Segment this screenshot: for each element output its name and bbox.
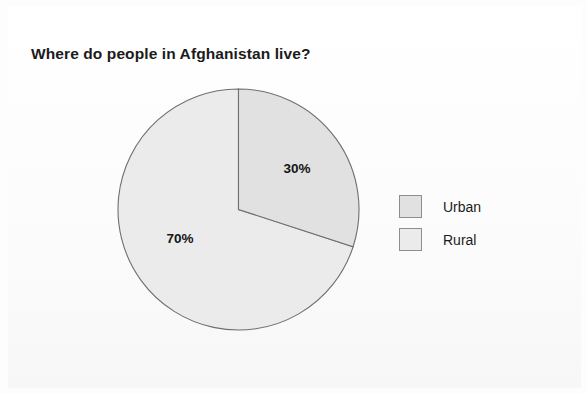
pie-chart-plot: 30% 70% xyxy=(117,88,360,331)
pie-chart-figure: Where do people in Afghanistan live? 30%… xyxy=(0,0,587,394)
legend-item-rural[interactable]: Rural xyxy=(399,223,549,256)
legend-swatch-rural xyxy=(399,228,422,251)
legend-swatch-urban xyxy=(399,195,422,218)
legend-item-urban[interactable]: Urban xyxy=(399,190,549,223)
legend-label-urban: Urban xyxy=(443,199,481,215)
pie-svg: 30% 70% xyxy=(117,88,360,331)
pie-label-rural: 70% xyxy=(166,231,193,246)
chart-legend: Urban Rural xyxy=(399,190,549,256)
chart-title: Where do people in Afghanistan live? xyxy=(31,45,310,63)
legend-label-rural: Rural xyxy=(443,232,476,248)
pie-label-urban: 30% xyxy=(283,161,310,176)
